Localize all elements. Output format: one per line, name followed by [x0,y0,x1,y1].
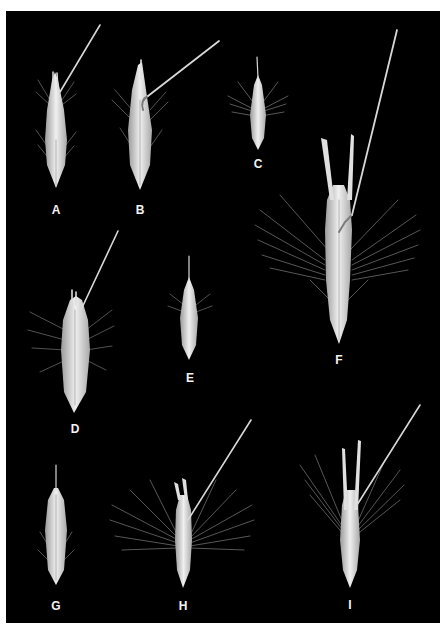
panel-label-d: D [71,423,80,435]
spikelet-e [168,256,212,360]
spikelet-a [36,25,100,188]
panel-label-c: C [254,158,263,170]
panel-label-g: G [51,600,60,612]
spikelet-i [300,405,420,588]
panel-label-e: E [186,372,194,384]
spikelet-g [38,465,74,585]
spikelet-h [110,420,254,588]
spikelet-f [255,30,420,344]
panel-label-b: B [136,204,145,216]
spikelet-c [228,57,288,150]
panel-label-a: A [52,204,61,216]
panel-label-h: H [179,600,188,612]
spikelet-b [112,41,219,190]
panel-label-f: F [335,354,342,366]
panel-label-i: I [348,599,351,611]
spikelet-d [28,231,118,413]
specimen-illustrations [0,0,446,631]
